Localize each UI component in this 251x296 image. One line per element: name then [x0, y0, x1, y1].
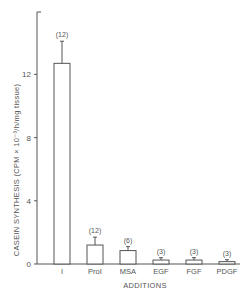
y-axis-title: CASEIN SYNTHESIS (CPM × 10⁻³/h/mg tissue… [12, 84, 21, 257]
bar-group: (12)I [54, 31, 70, 276]
bar-group: (12)ProI [87, 227, 103, 276]
bar-group: (3)EGF [153, 248, 169, 276]
sample-size-label: (12) [56, 31, 68, 39]
x-axis-title: ADDITIONS [123, 281, 167, 290]
category-label: FGF [187, 267, 202, 276]
y-tick-label: 8 [27, 134, 32, 143]
bar [186, 260, 202, 264]
category-label: ProI [88, 267, 102, 276]
bar [153, 260, 169, 264]
bars: (12)I(12)ProI(6)MSA(3)EGF(3)FGF(3)PDGF [54, 31, 238, 276]
sample-size-label: (12) [89, 227, 101, 235]
y-tick-label: 12 [22, 70, 31, 79]
bar-group: (6)MSA [120, 237, 136, 276]
bar-chart: 04812 (12)I(12)ProI(6)MSA(3)EGF(3)FGF(3)… [0, 0, 251, 296]
category-label: PDGF [217, 267, 238, 276]
sample-size-label: (3) [157, 248, 166, 256]
sample-size-label: (6) [124, 237, 133, 245]
category-label: MSA [120, 267, 136, 276]
y-tick-label: 0 [27, 260, 32, 269]
category-label: EGF [153, 267, 169, 276]
bar [219, 262, 235, 264]
sample-size-label: (3) [223, 250, 232, 258]
bar [54, 63, 70, 264]
y-tick-label: 4 [27, 197, 32, 206]
bar [120, 251, 136, 264]
bar-group: (3)PDGF [217, 250, 238, 276]
bar [87, 245, 103, 264]
bar-group: (3)FGF [186, 248, 202, 276]
sample-size-label: (3) [190, 248, 199, 256]
category-label: I [61, 267, 63, 276]
